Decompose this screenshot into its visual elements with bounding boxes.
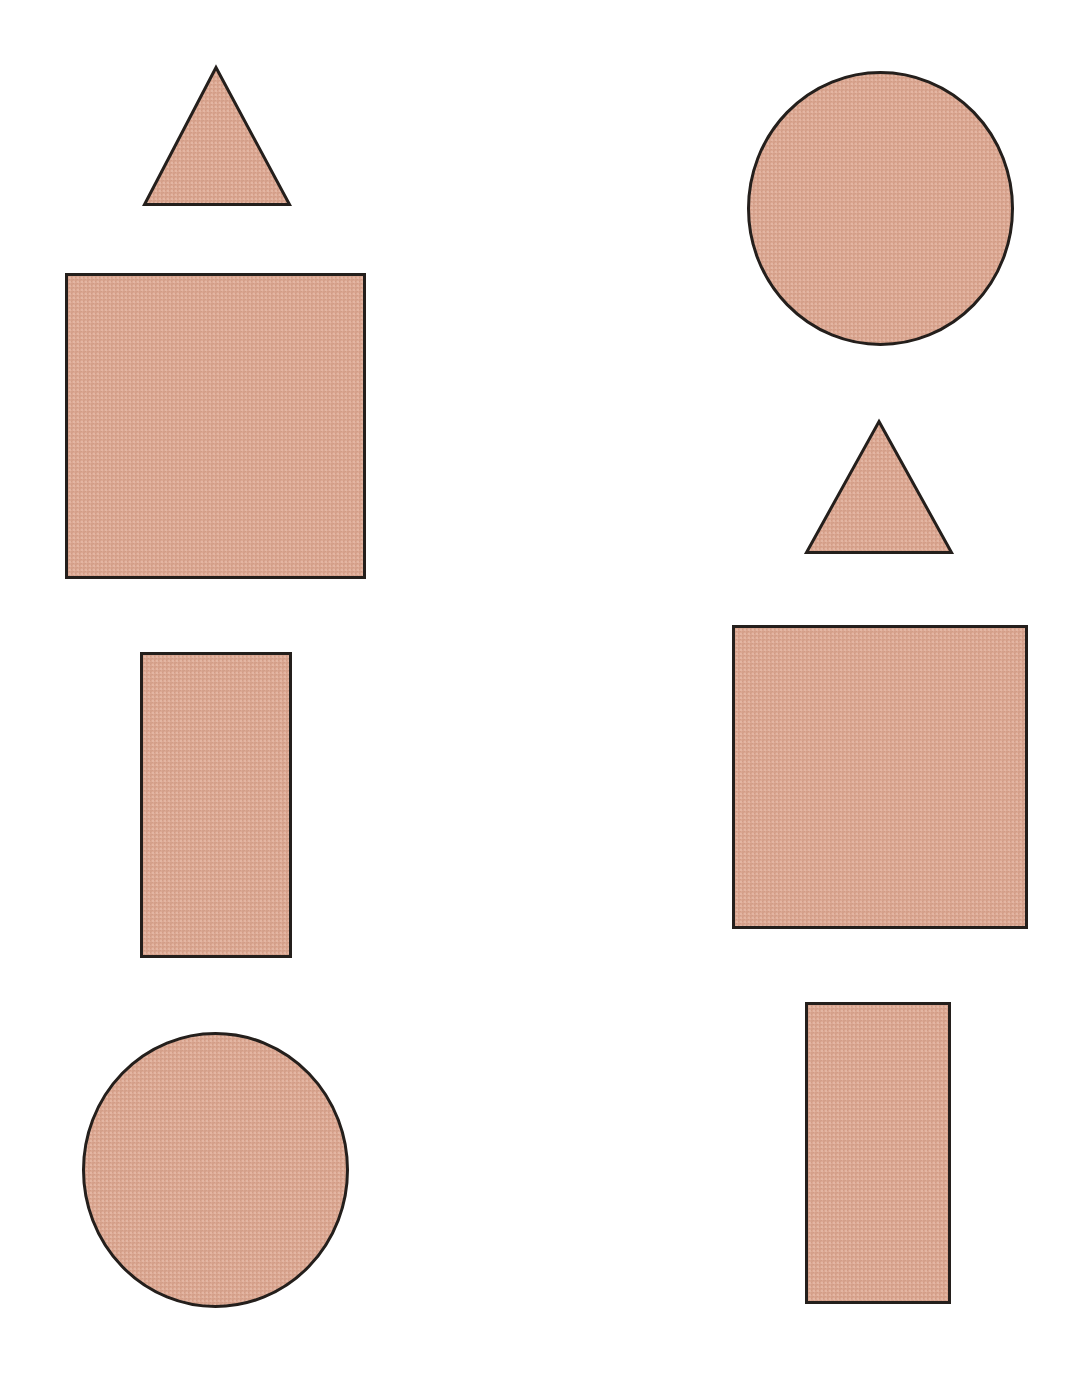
rectangle-icon (805, 1002, 951, 1304)
shape-right-rectangle (805, 1002, 951, 1304)
shape-right-triangle (805, 420, 953, 554)
triangle-icon (805, 420, 953, 554)
shape-right-circle (747, 71, 1014, 346)
circle-icon (747, 71, 1014, 346)
square-icon (732, 625, 1028, 929)
shape-right-square (732, 625, 1028, 929)
figure-canvas (0, 0, 1075, 1380)
right-column (0, 0, 1075, 1380)
